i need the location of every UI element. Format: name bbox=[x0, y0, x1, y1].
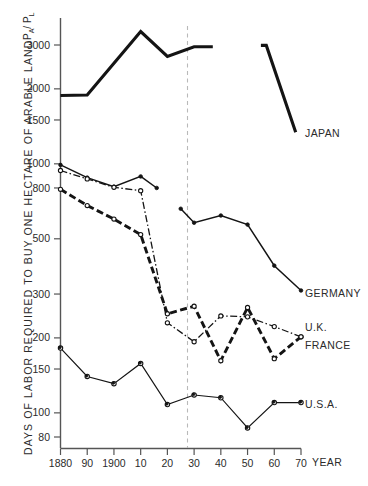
x-tick-label: 60 bbox=[268, 457, 280, 469]
data-point-marker bbox=[112, 217, 116, 221]
ratio-sub-l: L bbox=[28, 12, 35, 16]
data-point-marker bbox=[272, 357, 276, 361]
data-point-marker bbox=[245, 315, 249, 319]
x-tick-label: 1880 bbox=[49, 457, 73, 469]
data-point-marker-inner bbox=[246, 426, 249, 429]
series-path-japan bbox=[261, 45, 296, 132]
series-path-usa bbox=[61, 348, 302, 428]
series-label-germany: GERMANY bbox=[305, 287, 361, 299]
data-point-marker bbox=[139, 175, 143, 179]
data-point-marker-inner bbox=[299, 401, 302, 404]
data-point-marker bbox=[58, 168, 62, 172]
data-point-marker bbox=[192, 304, 196, 308]
series-layer bbox=[58, 32, 303, 431]
data-point-marker bbox=[155, 186, 159, 190]
data-point-marker bbox=[192, 221, 196, 225]
y-tick-label: 150 bbox=[32, 363, 50, 375]
data-point-marker bbox=[58, 187, 62, 191]
data-point-marker bbox=[139, 189, 143, 193]
x-tick-label: 50 bbox=[242, 457, 254, 469]
series-path-japan bbox=[61, 32, 213, 96]
ratio-slash: / P bbox=[22, 16, 33, 29]
x-tick-label: 10 bbox=[135, 457, 147, 469]
data-point-marker bbox=[85, 177, 89, 181]
series-label-japan: JAPAN bbox=[305, 127, 340, 139]
y-tick-label: 200 bbox=[32, 331, 50, 343]
data-point-marker bbox=[165, 312, 169, 316]
y-tick-label: 80 bbox=[38, 431, 50, 443]
y-tick-label: 2000 bbox=[27, 82, 51, 94]
series-label-uk: U.K. bbox=[305, 321, 327, 333]
x-tick-label: 90 bbox=[81, 457, 93, 469]
data-point-marker-inner bbox=[112, 382, 115, 385]
series-path-germany bbox=[181, 209, 301, 291]
line-chart-svg: DAYS OF LABOR REQUIRED TO BUY ONE HECTAR… bbox=[0, 0, 368, 486]
x-tick-group: 188090190010203040506070 bbox=[49, 449, 307, 470]
data-point-marker bbox=[246, 223, 250, 227]
y-tick-label: 800 bbox=[32, 182, 50, 194]
data-point-marker bbox=[139, 232, 143, 236]
data-point-marker bbox=[219, 314, 223, 318]
data-point-marker bbox=[192, 340, 196, 344]
series-path-france bbox=[61, 189, 302, 360]
chart-canvas: DAYS OF LABOR REQUIRED TO BUY ONE HECTAR… bbox=[0, 0, 368, 486]
series-label-usa: U.S.A. bbox=[305, 398, 338, 410]
x-tick-label: 1900 bbox=[102, 457, 126, 469]
data-point-marker bbox=[112, 185, 116, 189]
data-point-marker bbox=[59, 163, 63, 167]
data-point-marker bbox=[219, 359, 223, 363]
series-path-uk bbox=[61, 171, 302, 342]
data-point-marker-inner bbox=[219, 396, 222, 399]
y-tick-label: 100 bbox=[32, 406, 50, 418]
y-tick-label: 500 bbox=[32, 232, 50, 244]
x-tick-label: 70 bbox=[295, 457, 307, 469]
data-point-marker-inner bbox=[272, 401, 275, 404]
data-point-marker-inner bbox=[59, 346, 62, 349]
data-point-marker bbox=[272, 325, 276, 329]
data-point-marker bbox=[245, 305, 249, 309]
y-tick-label: 3000 bbox=[27, 39, 51, 51]
x-tick-label: 40 bbox=[215, 457, 227, 469]
y-axis-ratio-label: PA/ PL bbox=[22, 12, 35, 40]
data-point-marker-inner bbox=[165, 403, 168, 406]
x-tick-label: 20 bbox=[162, 457, 174, 469]
y-tick-label: 1000 bbox=[27, 157, 51, 169]
data-point-marker bbox=[179, 207, 183, 211]
data-point-marker bbox=[299, 289, 303, 293]
data-point-marker bbox=[299, 335, 303, 339]
data-point-marker-inner bbox=[192, 393, 195, 396]
data-point-marker bbox=[85, 203, 89, 207]
y-tick-label: 1500 bbox=[27, 114, 51, 126]
data-point-marker bbox=[272, 264, 276, 268]
x-axis-title: YEAR bbox=[312, 456, 342, 468]
x-tick-label: 30 bbox=[188, 457, 200, 469]
y-axis-title: DAYS OF LABOR REQUIRED TO BUY ONE HECTAR… bbox=[22, 40, 34, 455]
data-point-marker bbox=[219, 214, 223, 218]
series-label-france: FRANCE bbox=[305, 339, 351, 351]
data-point-marker bbox=[165, 321, 169, 325]
y-tick-label: 300 bbox=[32, 288, 50, 300]
data-point-marker-inner bbox=[85, 375, 88, 378]
data-point-marker-inner bbox=[139, 361, 142, 364]
